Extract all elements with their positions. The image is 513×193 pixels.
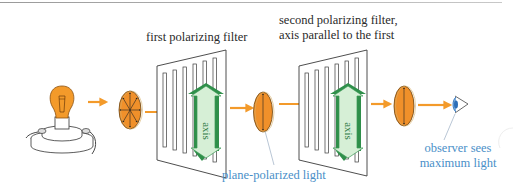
axis-label-1: axis bbox=[201, 122, 213, 140]
leader-line bbox=[265, 131, 274, 165]
plane-polarized-light-disk bbox=[254, 92, 275, 132]
second-polarizing-filter bbox=[299, 50, 367, 176]
eye-icon bbox=[453, 96, 468, 113]
second-filter-label-line1: second polarizing filter, bbox=[279, 13, 398, 28]
second-filter-label-line2: axis parallel to the first bbox=[279, 28, 394, 43]
observer-label-line1: observer sees bbox=[408, 141, 508, 156]
plane-polarized-light-disk bbox=[394, 86, 416, 126]
plane-polarized-label: plane-polarized light bbox=[222, 168, 326, 183]
observer-label-line2: maximum light bbox=[408, 156, 508, 171]
light-bulb-icon bbox=[26, 86, 96, 154]
unpolarized-light-disk bbox=[119, 91, 143, 129]
first-filter-label: first polarizing filter bbox=[146, 30, 247, 45]
leader-line bbox=[444, 114, 455, 140]
axis-label-2: axis bbox=[343, 122, 355, 140]
first-polarizing-filter bbox=[157, 50, 226, 178]
